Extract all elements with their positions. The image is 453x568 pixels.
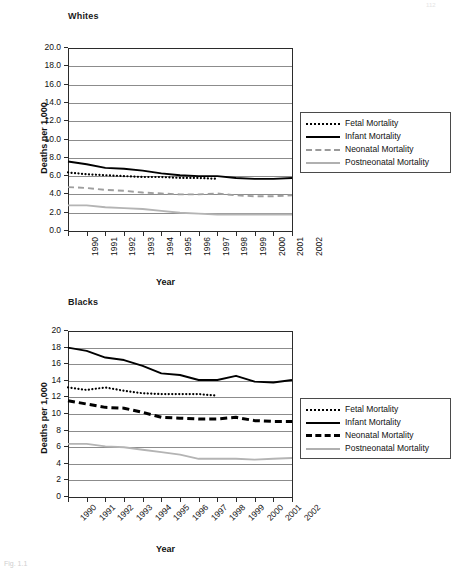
y-tick-mark bbox=[64, 446, 68, 447]
legend-item: Fetal Mortality bbox=[306, 403, 445, 416]
y-tick-mark bbox=[64, 430, 68, 431]
y-tick-mark bbox=[64, 496, 68, 497]
x-tick-mark bbox=[199, 498, 200, 502]
x-tick-label: 1998 bbox=[240, 237, 249, 256]
x-tick-label: 1994 bbox=[166, 237, 175, 256]
x-tick-mark bbox=[143, 232, 144, 236]
y-tick-label: 16.0 bbox=[20, 80, 61, 89]
y-tick-mark bbox=[64, 47, 68, 48]
y-tick-mark bbox=[64, 193, 68, 194]
x-tick-mark bbox=[87, 232, 88, 236]
y-tick-label: 18 bbox=[20, 343, 61, 352]
y-tick-mark bbox=[64, 175, 68, 176]
legend-item: Infant Mortality bbox=[306, 416, 445, 429]
legend-swatch-icon bbox=[306, 430, 340, 442]
y-tick-mark bbox=[64, 65, 68, 66]
y-tick-label: 4 bbox=[20, 459, 61, 468]
y-tick-label: 4.0 bbox=[20, 189, 61, 198]
x-tick-mark bbox=[87, 498, 88, 502]
legend-label: Postneonatal Mortality bbox=[345, 444, 429, 453]
x-tick-label: 1996 bbox=[203, 237, 212, 256]
x-tick-label: 1990 bbox=[91, 237, 100, 256]
y-tick-mark bbox=[64, 84, 68, 85]
y-tick-mark bbox=[64, 363, 68, 364]
y-tick-label: 20.0 bbox=[20, 43, 61, 52]
y-tick-label: 16 bbox=[20, 359, 61, 368]
x-tick-mark bbox=[124, 498, 125, 502]
legend-label: Neonatal Mortality bbox=[345, 431, 414, 440]
x-tick-mark bbox=[236, 498, 237, 502]
y-tick-label: 2.0 bbox=[20, 208, 61, 217]
series-line bbox=[68, 387, 217, 395]
x-tick-mark bbox=[273, 498, 274, 502]
series-line bbox=[68, 444, 292, 460]
x-tick-mark bbox=[217, 498, 218, 502]
legend-blacks: Fetal MortalityInfant MortalityNeonatal … bbox=[300, 398, 451, 459]
y-tick-label: 0 bbox=[20, 492, 61, 501]
series-line bbox=[68, 401, 292, 422]
legend-item: Neonatal Mortality bbox=[306, 429, 445, 442]
x-tick-mark bbox=[255, 232, 256, 236]
y-tick-label: 8 bbox=[20, 426, 61, 435]
x-tick-label: 1995 bbox=[184, 237, 193, 256]
x-axis-title-blacks: Year bbox=[156, 544, 175, 554]
x-tick-mark bbox=[161, 498, 162, 502]
y-tick-mark bbox=[64, 347, 68, 348]
y-tick-label: 14 bbox=[20, 376, 61, 385]
y-tick-label: 14.0 bbox=[20, 98, 61, 107]
y-tick-mark bbox=[64, 212, 68, 213]
y-tick-mark bbox=[64, 102, 68, 103]
y-tick-label: 10.0 bbox=[20, 135, 61, 144]
x-tick-mark bbox=[236, 232, 237, 236]
x-tick-mark bbox=[292, 232, 293, 236]
y-tick-mark bbox=[64, 463, 68, 464]
y-tick-label: 2 bbox=[20, 475, 61, 484]
x-tick-label: 1992 bbox=[128, 237, 137, 256]
x-tick-label: 1991 bbox=[110, 237, 119, 256]
x-tick-mark bbox=[105, 498, 106, 502]
legend-swatch-icon bbox=[306, 417, 340, 429]
x-tick-label: 2001 bbox=[296, 237, 305, 256]
y-tick-mark bbox=[64, 120, 68, 121]
y-tick-mark bbox=[64, 396, 68, 397]
y-tick-mark bbox=[64, 139, 68, 140]
x-tick-mark bbox=[143, 498, 144, 502]
y-tick-mark bbox=[64, 413, 68, 414]
x-tick-label: 1993 bbox=[147, 237, 156, 256]
y-tick-mark bbox=[64, 479, 68, 480]
y-tick-label: 8.0 bbox=[20, 153, 61, 162]
figure-caption: Fig. 1.1 bbox=[4, 560, 27, 567]
legend-label: Infant Mortality bbox=[345, 418, 401, 427]
x-tick-mark bbox=[255, 498, 256, 502]
y-tick-label: 18.0 bbox=[20, 61, 61, 70]
legend-label: Fetal Mortality bbox=[345, 405, 398, 414]
x-tick-mark bbox=[161, 232, 162, 236]
legend-item: Postneonatal Mortality bbox=[306, 442, 445, 455]
x-tick-mark bbox=[68, 232, 69, 236]
y-tick-label: 12.0 bbox=[20, 116, 61, 125]
legend-swatch-icon bbox=[306, 404, 340, 416]
y-tick-mark bbox=[64, 230, 68, 231]
x-tick-label: 1999 bbox=[259, 237, 268, 256]
y-tick-mark bbox=[64, 157, 68, 158]
x-tick-mark bbox=[217, 232, 218, 236]
x-tick-mark bbox=[105, 232, 106, 236]
y-tick-mark bbox=[64, 380, 68, 381]
y-tick-label: 6.0 bbox=[20, 171, 61, 180]
y-tick-mark bbox=[64, 330, 68, 331]
legend-swatch-icon bbox=[306, 443, 340, 455]
y-tick-label: 6 bbox=[20, 442, 61, 451]
x-tick-mark bbox=[292, 498, 293, 502]
x-tick-label: 2002 bbox=[315, 237, 324, 256]
x-tick-mark bbox=[273, 232, 274, 236]
x-tick-mark bbox=[124, 232, 125, 236]
y-tick-label: 12 bbox=[20, 392, 61, 401]
y-tick-label: 20 bbox=[20, 326, 61, 335]
y-tick-label: 10 bbox=[20, 409, 61, 418]
x-tick-mark bbox=[199, 232, 200, 236]
x-tick-mark bbox=[180, 232, 181, 236]
x-tick-mark bbox=[180, 498, 181, 502]
y-tick-label: 0.0 bbox=[20, 226, 61, 235]
x-tick-label: 1997 bbox=[222, 237, 231, 256]
x-tick-mark bbox=[68, 498, 69, 502]
